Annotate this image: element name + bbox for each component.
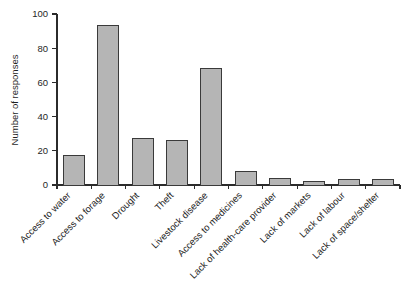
y-axis-title: Number of responses <box>9 54 20 145</box>
bar <box>372 180 393 185</box>
y-tick-label: 20 <box>37 145 48 156</box>
bar <box>98 26 119 185</box>
bar <box>201 69 222 185</box>
y-tick-label: 100 <box>32 8 48 19</box>
y-tick-label: 0 <box>43 179 48 190</box>
bar-chart: 020406080100 Access to waterAccess to fo… <box>0 0 411 292</box>
bar <box>167 141 188 185</box>
bar <box>338 180 359 185</box>
bar <box>269 178 290 185</box>
y-tick-label: 60 <box>37 77 48 88</box>
bar <box>304 182 325 185</box>
bar <box>132 139 153 185</box>
y-tick-label: 80 <box>37 43 48 54</box>
y-tick-label: 40 <box>37 111 48 122</box>
bar <box>64 156 85 185</box>
chart-canvas: 020406080100 Access to waterAccess to fo… <box>0 0 411 292</box>
bar <box>235 171 256 185</box>
